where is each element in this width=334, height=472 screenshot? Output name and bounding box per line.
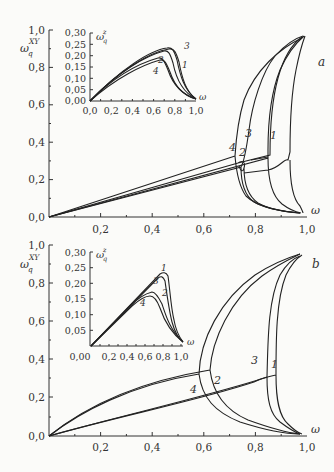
panel-b-letter: b (312, 257, 320, 271)
panel-b-curve-label-4: 4 (189, 383, 197, 396)
panel-a-xtick-02: 0,2 (92, 223, 109, 235)
panel-a: 1,0 0,8 0,6 0,4 0,2 0,0 0,2 0,4 0,6 0,8 … (20, 24, 325, 235)
panel-b-curve-4 (49, 254, 300, 436)
panel-b-curve-label-1: 1 (271, 358, 278, 371)
panel-a-inset-label-3: 3 (184, 41, 190, 51)
svg-text:XY: XY (28, 37, 40, 46)
panel-b-inset-label-3: 3 (153, 276, 159, 286)
panel-b-inset-xtick-08: 0,8 (155, 351, 170, 362)
panel-a-inset-label-1: 1 (182, 60, 188, 70)
panel-a-letter: a (318, 55, 325, 69)
panel-b-xtick-04: 0,4 (144, 441, 161, 453)
panel-a-ytick-06: 0,6 (28, 98, 45, 110)
panel-a-curve-label-4: 4 (228, 141, 236, 154)
panel-b-xtick-08: 0,8 (247, 441, 264, 453)
panel-a-xtick-08: 0,8 (247, 223, 264, 235)
panel-a-ytick-08: 0,8 (28, 61, 45, 73)
panel-a-ylabel: ω q XY (20, 37, 40, 58)
panel-b-xtick-1: 1,0 (299, 441, 316, 453)
panel-a-inset-ylabel: ω q z (96, 28, 107, 45)
panel-a-x-ticks (75, 213, 281, 217)
svg-text:q: q (28, 265, 33, 274)
panel-b-curve-label-3: 3 (251, 354, 258, 367)
panel-a-inset-curve-3 (90, 48, 196, 101)
svg-text:q: q (103, 37, 107, 45)
panel-a-inset-xtick-06: 0,6 (146, 105, 161, 116)
panel-b-inset-ytick-010: 0,10 (65, 309, 86, 320)
panel-b: 1,0 0,8 0,6 0,4 0,2 0,0 0,2 0,4 0,6 0,8 … (20, 239, 320, 453)
panel-b-inset-ytick-015: 0,15 (65, 293, 86, 304)
svg-text:XY: XY (28, 253, 40, 262)
panel-a-inset-curves (90, 48, 196, 101)
panel-b-inset-label-1: 1 (161, 263, 167, 273)
panel-a-xtick-04: 0,4 (144, 223, 161, 235)
panel-a-inset-xtick-08: 0,8 (167, 105, 182, 116)
panel-b-ytick-06: 0,6 (28, 315, 45, 327)
panel-b-xtick-06: 0,6 (195, 441, 212, 453)
panel-b-inset-curve-4 (91, 296, 183, 346)
panel-a-curve-label-3: 3 (245, 127, 252, 140)
svg-text:q: q (103, 255, 107, 263)
panel-a-inset-ytick-025: 0,25 (65, 39, 86, 50)
figure: 1,0 0,8 0,6 0,4 0,2 0,0 0,2 0,4 0,6 0,8 … (0, 0, 334, 472)
panel-a-inset-xtick-10: 1,0 (188, 105, 203, 116)
panel-a-xtick-06: 0,6 (195, 223, 212, 235)
panel-b-ytick-08: 0,8 (28, 277, 45, 289)
panel-a-inset-ytick-030: 0,30 (65, 27, 86, 38)
panel-a-inset-ytick-005: 0,05 (65, 84, 86, 95)
panel-a-ytick-02: 0,2 (28, 173, 45, 185)
panel-b-curves (49, 254, 302, 436)
panel-b-ytick-1: 1,0 (28, 239, 45, 251)
panel-a-inset-ytick-020: 0,20 (65, 50, 86, 61)
panel-b-curve-2 (49, 254, 300, 436)
panel-a-xtick-1: 1,0 (299, 223, 316, 235)
panel-b-inset-ytick-025: 0,25 (65, 262, 86, 273)
svg-text:q: q (28, 49, 33, 58)
panel-a-curve-label-1: 1 (270, 129, 277, 142)
svg-text:z: z (102, 246, 107, 254)
panel-b-ytick-04: 0,4 (28, 353, 45, 365)
panel-a-inset-label-2: 2 (157, 55, 164, 65)
panel-b-inset-ylabel: ω q z (96, 246, 107, 263)
panel-a-ytick-0: 0,0 (28, 211, 45, 223)
panel-b-ylabel: ω q XY (20, 253, 40, 274)
panel-a-inset-xtick-04: 0,4 (125, 105, 140, 116)
panel-a-ytick-1: 1,0 (28, 24, 45, 36)
panel-b-inset-label-4: 4 (139, 298, 146, 308)
panel-a-inset-ytick-015: 0,15 (65, 61, 86, 72)
panel-b-inset-xlabel: ω (187, 337, 195, 347)
panel-a-inset-xtick-02: 0,2 (104, 105, 119, 116)
panel-b-curve-label-2: 2 (213, 374, 221, 387)
panel-a-inset-label-4: 4 (152, 66, 159, 76)
panel-b-xtick-02: 0,2 (92, 441, 109, 453)
panel-b-inset-ytick-020: 0,20 (65, 278, 86, 289)
panel-b-inset-curves (91, 273, 183, 346)
panel-b-inset-curve-2 (91, 292, 183, 346)
panel-b-inset-ytick-005: 0,05 (65, 325, 86, 336)
panel-b-inset-ytick-030: 0,30 (65, 247, 86, 258)
panel-b-ytick-0: 0,0 (28, 430, 45, 442)
panel-a-inset-ytick-010: 0,10 (65, 73, 86, 84)
panel-b-inset-xtick-02: 0,2 (101, 351, 116, 362)
panel-b-inset-xtick-04: 0,4 (119, 351, 134, 362)
panel-a-curves (49, 36, 305, 217)
panel-b-x-ticks (75, 432, 281, 436)
panel-a-curve-3 (49, 36, 303, 217)
panel-a-inset-curve-4a (90, 58, 196, 101)
panel-b-inset-xtick-06: 0,6 (137, 351, 152, 362)
panel-a-ytick-04: 0,4 (28, 136, 45, 148)
panel-a-curve-2 (49, 37, 302, 217)
panel-a-curve-label-2: 2 (238, 146, 246, 159)
panel-b-xlabel: ω (311, 423, 320, 436)
panel-b-inset-xtick-10: 1,0 (173, 351, 188, 362)
panel-a-y-ticks (49, 30, 53, 198)
panel-a-curve-4 (49, 38, 302, 217)
panel-b-y-ticks (49, 245, 53, 417)
panel-a-inset-xtick-00: 0,0 (82, 105, 97, 116)
panel-a-xlabel: ω (311, 204, 320, 217)
svg-text:z: z (102, 28, 107, 36)
panel-a-inset-xlabel: ω (199, 92, 207, 102)
panel-b-ytick-02: 0,2 (28, 391, 45, 403)
panel-b-inset-ytick-000: 0,00 (69, 351, 90, 362)
panel-b-inset-label-2: 2 (161, 288, 168, 298)
